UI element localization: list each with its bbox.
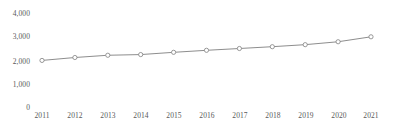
x-tick-label-2011: 2011 xyxy=(25,111,59,120)
line-chart: 4,000 3,000 2,000 1,000 0 2011 2012 2013… xyxy=(0,0,400,132)
x-tick-label-2015: 2015 xyxy=(157,111,191,120)
x-tick-label-2021: 2021 xyxy=(354,111,388,120)
x-tick-label-2012: 2012 xyxy=(58,111,92,120)
x-tick-label-2017: 2017 xyxy=(223,111,257,120)
x-tick-label-2020: 2020 xyxy=(322,111,356,120)
x-tick-label-2013: 2013 xyxy=(91,111,125,120)
x-tick-label-2016: 2016 xyxy=(190,111,224,120)
x-axis: 2011 2012 2013 2014 2015 2016 2017 2018 … xyxy=(0,0,400,132)
x-tick-label-2014: 2014 xyxy=(124,111,158,120)
x-tick-label-2019: 2019 xyxy=(289,111,323,120)
x-tick-label-2018: 2018 xyxy=(256,111,290,120)
